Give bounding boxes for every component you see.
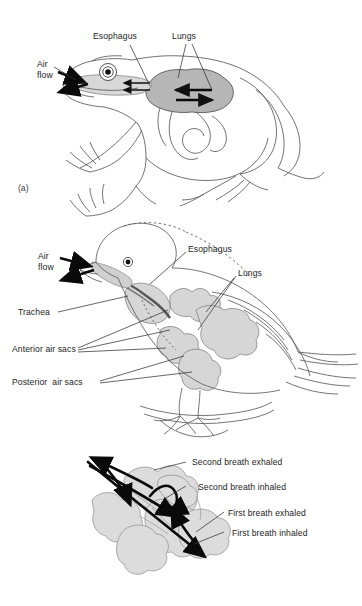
figure-artwork: [0, 0, 362, 606]
bird-esophagus-label: Esophagus: [188, 244, 232, 254]
bird-lungs-label: Lungs: [238, 268, 262, 278]
bird-posterior-air-sacs-label: Posterior air sacs: [12, 377, 83, 387]
bird-trachea-label: Trachea: [18, 307, 50, 317]
panel-a-marker: (a): [18, 183, 29, 193]
first-breath-inhaled-label: First breath inhaled: [232, 528, 308, 538]
bird-illustration: [58, 223, 358, 437]
frog-illustration: [54, 44, 324, 216]
bird-air-flow-label: Air flow: [38, 251, 54, 272]
airflow-detail-illustration: [88, 458, 230, 574]
bird-anterior-air-sacs-label: Anterior air sacs: [12, 344, 76, 354]
first-breath-exhaled-label: First breath exhaled: [228, 508, 306, 518]
second-breath-exhaled-label: Second breath exhaled: [192, 457, 283, 467]
respiratory-systems-figure: Air flow Esophagus Lungs (a) Air flow Es…: [0, 0, 362, 606]
frog-esophagus-label: Esophagus: [93, 31, 137, 41]
frog-air-flow-label: Air flow: [37, 59, 53, 80]
frog-lungs-label: Lungs: [172, 31, 196, 41]
bird-air-sacs-shapes: [92, 262, 259, 390]
second-breath-inhaled-label: Second breath inhaled: [198, 482, 286, 492]
